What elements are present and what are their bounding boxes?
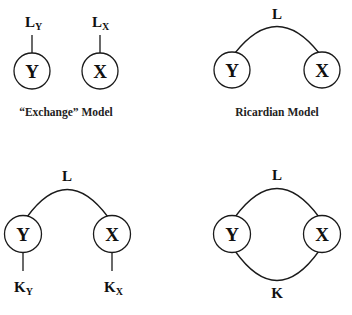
labor-x-label: LX <box>92 14 110 32</box>
labor-shared-arc <box>27 190 108 218</box>
capital-y-label: KY <box>14 279 34 297</box>
labor-label: L <box>272 6 282 22</box>
exchange-model-caption: “Exchange” Model <box>19 106 113 119</box>
sector-y-label: Y <box>16 224 30 245</box>
trade-models-diagram: LY LX Y X “Exchange” Model L Y X Ricardi… <box>0 0 352 315</box>
labor-shared-arc <box>235 27 319 54</box>
ricardian-model-panel: L Y X Ricardian Model <box>214 6 340 118</box>
labor-label: L <box>62 168 72 184</box>
specific-factors-panel: L Y X KY KX <box>5 168 131 297</box>
capital-x-label: KX <box>104 279 124 297</box>
sector-y-label: Y <box>225 224 239 245</box>
ricardian-model-caption: Ricardian Model <box>235 106 318 118</box>
sector-x-label: X <box>315 224 329 245</box>
sector-x-label: X <box>93 61 107 82</box>
sector-x-label: X <box>105 224 119 245</box>
sector-y-label: Y <box>225 60 239 81</box>
exchange-model-panel: LY LX Y X “Exchange” Model <box>14 14 118 119</box>
sector-x-label: X <box>315 60 329 81</box>
labor-shared-arc <box>235 189 319 218</box>
sector-y-label: Y <box>25 61 39 82</box>
labor-y-label: LY <box>25 14 43 32</box>
capital-label: K <box>271 285 283 301</box>
labor-label: L <box>272 167 282 183</box>
heckscher-ohlin-panel: L Y X K <box>214 167 341 301</box>
capital-shared-arc <box>235 251 319 281</box>
